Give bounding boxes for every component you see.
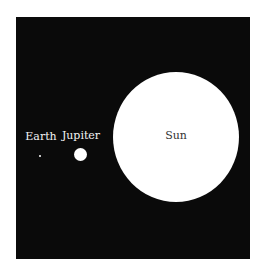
jupiter-label: Jupiter bbox=[62, 129, 100, 142]
earth-circle bbox=[39, 155, 41, 157]
earth-label: Earth bbox=[25, 130, 56, 143]
sun-label: Sun bbox=[165, 129, 187, 142]
jupiter-circle bbox=[74, 148, 87, 161]
